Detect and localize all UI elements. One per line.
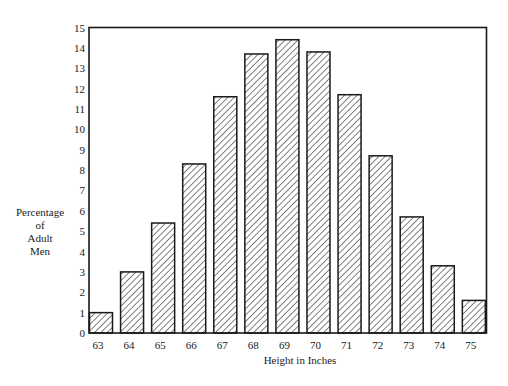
- x-tick-label: 68: [248, 339, 260, 351]
- y-axis-title-line: Percentage: [16, 206, 64, 218]
- x-tick-label: 65: [155, 339, 167, 351]
- y-tick-label: 0: [80, 327, 86, 339]
- x-tick-label: 73: [403, 339, 415, 351]
- y-tick-label: 3: [80, 266, 86, 278]
- y-tick-label: 14: [74, 42, 86, 54]
- y-axis-title-line: Men: [30, 245, 51, 257]
- x-tick-label: 63: [93, 339, 105, 351]
- y-tick-label: 7: [80, 184, 86, 196]
- y-axis-title-line: of: [35, 219, 45, 231]
- bar-67: [214, 97, 237, 333]
- y-axis-title: PercentageofAdultMen: [16, 206, 64, 257]
- y-tick-label: 13: [74, 62, 86, 74]
- x-tick-label: 71: [341, 339, 352, 351]
- bar-69: [276, 40, 299, 333]
- x-tick-label: 69: [279, 339, 291, 351]
- y-tick-label: 12: [74, 83, 85, 95]
- bar-63: [90, 313, 113, 333]
- histogram-chart: PercentageofAdultMen 0123456789101112131…: [0, 0, 508, 386]
- bar-72: [369, 156, 392, 333]
- x-tick-label: 67: [217, 339, 229, 351]
- x-tick-label: 72: [372, 339, 383, 351]
- y-tick-label: 11: [74, 103, 85, 115]
- bar-68: [245, 54, 268, 333]
- x-tick-label: 74: [434, 339, 446, 351]
- bar-66: [183, 164, 206, 333]
- y-tick-label: 6: [80, 205, 86, 217]
- bars: [90, 40, 486, 333]
- y-tick-label: 8: [80, 164, 86, 176]
- y-tick-label: 10: [74, 123, 86, 135]
- x-axis-title: Height in Inches: [264, 354, 337, 366]
- x-tick-label: 75: [465, 339, 477, 351]
- y-tick-label: 9: [80, 144, 86, 156]
- bar-71: [338, 95, 361, 333]
- bar-75: [462, 300, 485, 333]
- bar-73: [400, 217, 423, 333]
- x-tick-label: 64: [124, 339, 136, 351]
- bar-64: [121, 272, 144, 333]
- y-tick-label: 5: [80, 225, 86, 237]
- x-tick-label: 70: [310, 339, 322, 351]
- bar-70: [307, 52, 330, 333]
- y-axis-ticks: 0123456789101112131415: [74, 22, 86, 340]
- x-axis-ticks: 63646566676869707172737475: [93, 339, 477, 351]
- y-tick-label: 4: [80, 246, 86, 258]
- y-axis-title-line: Adult: [27, 232, 52, 244]
- y-tick-label: 15: [74, 22, 86, 34]
- bar-65: [152, 223, 175, 333]
- y-tick-label: 1: [80, 307, 86, 319]
- x-tick-label: 66: [186, 339, 198, 351]
- bar-74: [431, 266, 454, 333]
- y-tick-label: 2: [80, 286, 86, 298]
